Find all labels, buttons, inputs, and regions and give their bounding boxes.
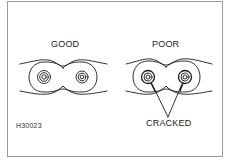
good-inner-link: [29, 62, 97, 92]
poor-chain-link: [126, 59, 212, 94]
good-top-outer-plate: [20, 60, 107, 66]
good-right-pin: [76, 71, 88, 83]
poor-right-pin: [179, 71, 192, 84]
diagram-canvas: [0, 0, 230, 160]
good-label: GOOD: [51, 39, 79, 49]
cracked-label: CRACKED: [146, 118, 191, 128]
figure-id-code: H30023: [16, 122, 42, 129]
poor-inner-link: [133, 61, 200, 92]
good-left-pin: [38, 71, 51, 84]
poor-label: POOR: [152, 39, 179, 49]
good-chain-link: [20, 60, 107, 94]
good-bottom-outer-plate: [20, 89, 107, 94]
poor-left-pin: [142, 71, 155, 84]
